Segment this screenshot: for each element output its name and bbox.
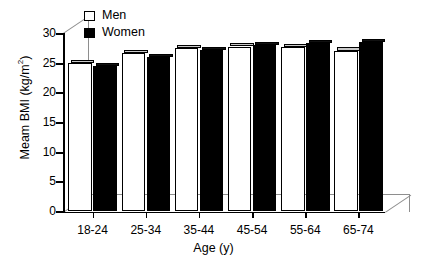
bar-women-65-74 [359, 42, 383, 212]
perspective-edge-bottom-right [385, 195, 411, 213]
bar-face [93, 66, 117, 211]
y-tick-label-30: 30 [30, 27, 56, 39]
bar-women-18-24 [93, 66, 117, 211]
x-tick-18-24 [93, 212, 95, 218]
bar-men-18-24 [68, 63, 92, 211]
y-tick-label-25: 25 [30, 57, 56, 69]
y-axis-label-suffix: ) [18, 56, 32, 60]
bar-men-45-54 [228, 47, 252, 212]
bar-face [228, 47, 252, 212]
y-tick-0 [56, 211, 63, 213]
bar-face [359, 42, 383, 212]
y-axis-label-superscript: 2 [16, 60, 25, 64]
legend: Men Women [84, 7, 145, 41]
bar-face [147, 57, 171, 211]
y-axis [63, 33, 65, 212]
bar-men-55-64 [281, 47, 305, 211]
x-category-label-65-74: 65-74 [323, 224, 393, 237]
bar-women-55-64 [306, 43, 330, 211]
y-tick-15 [56, 122, 63, 124]
bar-face [253, 45, 277, 211]
bar-women-25-34 [147, 57, 171, 211]
x-tick-35-44 [199, 212, 201, 218]
bar-face [175, 48, 199, 211]
bar-face [334, 51, 358, 212]
plot-area: 0 5 10 15 20 25 30 Meam BMI (kg/m2) Age … [0, 0, 427, 264]
legend-swatch-women-icon [84, 28, 95, 38]
y-tick-label-0: 0 [30, 205, 56, 217]
y-tick-label-20: 20 [30, 86, 56, 98]
bar-women-35-44 [200, 50, 224, 211]
y-tick-label-5: 5 [30, 175, 56, 187]
y-tick-5 [56, 181, 63, 183]
y-axis-label: Meam BMI (kg/m2) [16, 38, 31, 178]
x-tick-25-34 [146, 212, 148, 218]
legend-label-women: Women [102, 24, 145, 41]
bar-face [306, 43, 330, 211]
y-tick-20 [56, 92, 63, 94]
legend-swatch-men-icon [84, 11, 95, 21]
y-tick-10 [56, 152, 63, 154]
x-tick-45-54 [252, 212, 254, 218]
bar-face [122, 53, 146, 211]
x-axis [63, 212, 385, 214]
y-tick-label-10: 10 [30, 146, 56, 158]
legend-item-men[interactable]: Men [84, 7, 145, 24]
bar-chart: 0 5 10 15 20 25 30 Meam BMI (kg/m2) Age … [0, 0, 427, 264]
bar-face [200, 50, 224, 211]
bar-men-35-44 [175, 48, 199, 211]
x-tick-65-74 [358, 212, 360, 218]
bar-face [281, 47, 305, 211]
y-tick-30 [56, 33, 63, 35]
x-tick-55-64 [305, 212, 307, 218]
legend-item-women[interactable]: Women [84, 24, 145, 41]
bar-women-45-54 [253, 45, 277, 211]
y-axis-label-text: Meam BMI (kg/m [18, 64, 32, 159]
bar-face [68, 63, 92, 211]
y-tick-label-15: 15 [30, 116, 56, 128]
legend-label-men: Men [102, 7, 126, 24]
x-axis-label: Age (y) [0, 241, 427, 255]
y-tick-25 [56, 63, 63, 65]
bar-men-65-74 [334, 51, 358, 212]
bar-men-25-34 [122, 53, 146, 211]
perspective-edge-right-vertical [409, 194, 410, 212]
